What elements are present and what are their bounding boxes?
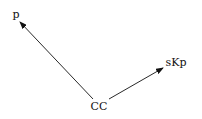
edge-cc-to-skp: [109, 68, 163, 99]
node-cc: CC: [91, 100, 108, 113]
edge-cc-to-p: [20, 22, 93, 99]
node-skp: sKp: [166, 56, 187, 69]
diagram-canvas: p sKp CC: [0, 0, 202, 119]
node-p: p: [12, 8, 19, 21]
